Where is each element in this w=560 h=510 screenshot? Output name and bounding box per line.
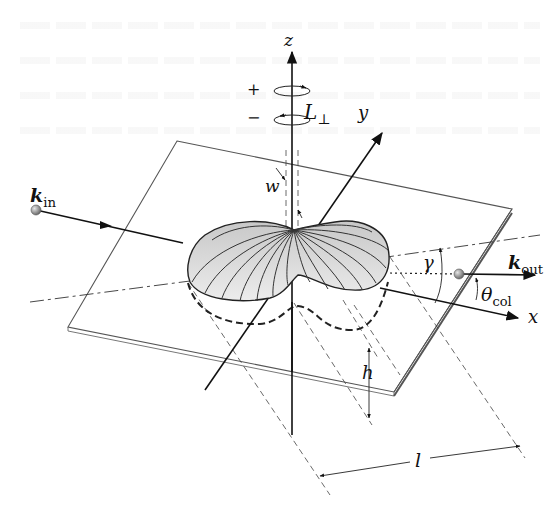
outgoing-particle [454,269,464,279]
y-axis-label: y [358,102,368,123]
length-label: l [415,449,421,471]
length-dimension-right [430,446,520,458]
rotation-plus-label: + [247,80,260,99]
incoming-wavevector-label: kin [30,184,56,206]
incoming-particle [31,205,41,215]
length-dimension-left [320,462,410,476]
width-label: w [265,176,280,196]
outgoing-wavevector-label: kout [508,251,543,273]
angular-momentum-label: L⊥ [304,100,330,124]
gamma-label: γ [423,252,434,273]
theta-col-arc [476,278,478,300]
height-label: h [362,362,374,383]
z-axis-label: z [284,30,293,50]
x-axis-label: x [528,306,538,327]
theta-col-label: θcol [481,283,512,305]
rotation-minus-label: − [247,108,260,127]
scattering-diagram [0,0,560,510]
